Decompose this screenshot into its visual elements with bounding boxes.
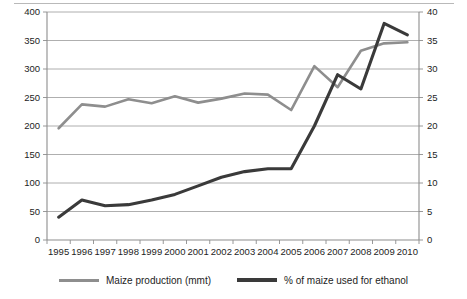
y-ticklabel-left: 150 bbox=[24, 149, 40, 160]
x-ticklabel: 2005 bbox=[281, 246, 302, 257]
x-ticklabel: 1997 bbox=[95, 246, 116, 257]
x-ticklabel: 2008 bbox=[350, 246, 371, 257]
legend-item-pct-maize-ethanol: % of maize used for ethanol bbox=[237, 275, 408, 286]
y-ticklabel-right: 25 bbox=[427, 92, 438, 103]
legend-swatch-maize-icon bbox=[59, 279, 99, 282]
y-ticklabel-left: 0 bbox=[35, 234, 40, 245]
y-axis-right-ticks bbox=[419, 12, 423, 240]
y-ticklabel-right: 0 bbox=[427, 234, 432, 245]
x-axis-labels: 1995199619971998199920002001200220032004… bbox=[48, 246, 418, 257]
x-ticklabel: 2009 bbox=[374, 246, 395, 257]
y-ticklabel-left: 50 bbox=[29, 206, 40, 217]
y-ticklabel-left: 350 bbox=[24, 35, 40, 46]
x-ticklabel: 2007 bbox=[327, 246, 348, 257]
y-axis-right-labels: 0510152025303540 bbox=[427, 6, 438, 245]
x-ticklabel: 1998 bbox=[118, 246, 139, 257]
x-ticklabel: 1999 bbox=[141, 246, 162, 257]
x-ticklabel: 2001 bbox=[188, 246, 209, 257]
y-ticklabel-right: 5 bbox=[427, 206, 432, 217]
x-ticklabel: 2002 bbox=[211, 246, 232, 257]
x-ticklabel: 2000 bbox=[164, 246, 185, 257]
x-axis-ticks bbox=[47, 240, 419, 244]
y-axis-left-ticks bbox=[43, 12, 47, 240]
y-ticklabel-left: 300 bbox=[24, 63, 40, 74]
x-ticklabel: 2004 bbox=[257, 246, 278, 257]
line-chart-svg: 050100150200250300350400 051015202530354… bbox=[0, 0, 467, 266]
gridlines-group bbox=[47, 12, 419, 212]
x-ticklabel: 1996 bbox=[71, 246, 92, 257]
y-ticklabel-right: 15 bbox=[427, 149, 438, 160]
y-ticklabel-right: 30 bbox=[427, 63, 438, 74]
series-line-pct-maize-ethanol bbox=[59, 23, 408, 217]
maize-ethanol-chart-figure: 050100150200250300350400 051015202530354… bbox=[0, 0, 467, 299]
x-ticklabel: 1995 bbox=[48, 246, 69, 257]
chart-plot-area: 050100150200250300350400 051015202530354… bbox=[0, 0, 467, 266]
legend-label-pct-maize-ethanol: % of maize used for ethanol bbox=[284, 275, 408, 286]
y-ticklabel-left: 250 bbox=[24, 92, 40, 103]
x-ticklabel: 2006 bbox=[304, 246, 325, 257]
chart-legend: Maize production (mmt) % of maize used f… bbox=[0, 268, 467, 292]
y-ticklabel-right: 40 bbox=[427, 6, 438, 17]
x-ticklabel: 2003 bbox=[234, 246, 255, 257]
y-ticklabel-right: 35 bbox=[427, 35, 438, 46]
y-ticklabel-left: 100 bbox=[24, 177, 40, 188]
legend-label-maize-production: Maize production (mmt) bbox=[106, 275, 211, 286]
legend-item-maize-production: Maize production (mmt) bbox=[59, 275, 211, 286]
y-ticklabel-right: 20 bbox=[427, 120, 438, 131]
y-axis-left-labels: 050100150200250300350400 bbox=[24, 6, 40, 245]
x-ticklabel: 2010 bbox=[397, 246, 418, 257]
legend-swatch-ethanol-icon bbox=[237, 278, 277, 282]
y-ticklabel-right: 10 bbox=[427, 177, 438, 188]
y-ticklabel-left: 200 bbox=[24, 120, 40, 131]
y-ticklabel-left: 400 bbox=[24, 6, 40, 17]
